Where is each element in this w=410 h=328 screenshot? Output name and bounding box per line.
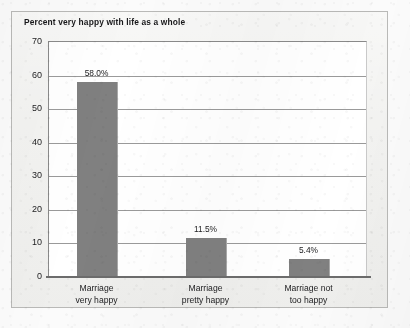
bar xyxy=(186,238,227,277)
y-tick-label: 0 xyxy=(10,271,42,281)
bar-value-label: 5.4% xyxy=(299,245,318,255)
x-category-label: Marriage nottoo happy xyxy=(284,283,332,306)
bar-value-label: 11.5% xyxy=(194,224,217,234)
y-tick-label: 30 xyxy=(10,170,42,180)
y-tick-label: 20 xyxy=(10,204,42,214)
chart-figure: Percent very happy with life as a whole … xyxy=(0,0,410,328)
y-tick-label: 60 xyxy=(10,70,42,80)
bar xyxy=(289,259,330,277)
bar xyxy=(77,82,118,277)
chart-title: Percent very happy with life as a whole xyxy=(24,17,185,27)
x-category-label: Marriagevery happy xyxy=(75,283,117,306)
x-axis-line xyxy=(46,276,371,278)
bar-value-label: 58.0% xyxy=(85,68,109,78)
x-category-label: Marriagepretty happy xyxy=(182,283,229,306)
y-tick-label: 40 xyxy=(10,137,42,147)
y-tick-label: 50 xyxy=(10,103,42,113)
y-tick-label: 70 xyxy=(10,36,42,46)
y-tick-label: 10 xyxy=(10,237,42,247)
